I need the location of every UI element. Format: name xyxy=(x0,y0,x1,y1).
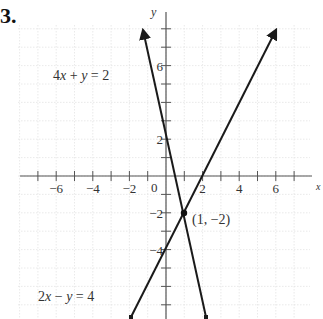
x-tick-label: −2 xyxy=(122,181,136,196)
x-axis-label: x xyxy=(315,181,321,192)
line-end-marker xyxy=(204,315,208,319)
intersection-label: (1, −2) xyxy=(192,212,231,228)
x-tick-labels: −6−4−2246 xyxy=(49,181,279,196)
y-tick-label: −2 xyxy=(149,206,163,221)
y-tick-label: 2 xyxy=(157,132,164,147)
x-tick-label: 6 xyxy=(273,181,280,196)
y-tick-label: 6 xyxy=(157,59,164,74)
y-axis-label: y xyxy=(150,5,157,19)
x-tick-label: 4 xyxy=(236,181,243,196)
problem-number: 3. xyxy=(0,3,17,28)
x-tick-label: −4 xyxy=(86,181,100,196)
equation-label-1: 4x + y = 2 xyxy=(53,68,109,83)
origin-label: 0 xyxy=(151,180,158,195)
line-end-marker xyxy=(129,315,133,319)
x-tick-label: −6 xyxy=(49,181,63,196)
equation-label-2: 2x − y = 4 xyxy=(38,289,94,304)
graph: 3. y x 4x + y = 2 2x − y = 4 (1, −2) 0 −… xyxy=(0,0,323,319)
y-tick-label: −4 xyxy=(149,243,163,258)
intersection-point xyxy=(181,210,187,216)
x-tick-label: 2 xyxy=(199,181,206,196)
